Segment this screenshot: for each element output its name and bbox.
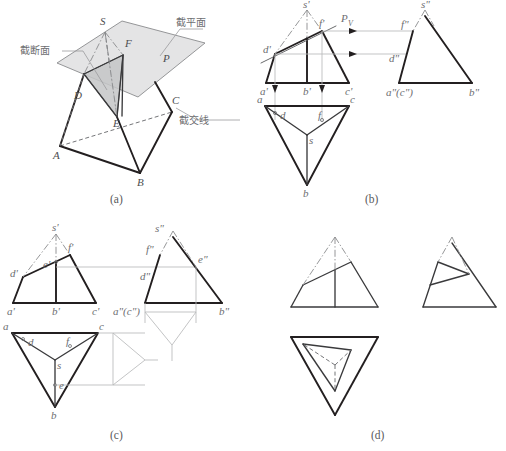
c-tv-edge-c-s (55, 333, 98, 360)
c-tv-edge-c-b (55, 333, 98, 407)
c-fv-label-a: a' (7, 305, 16, 317)
vertex-label-E: E (112, 117, 120, 129)
c-sv-aux-tri-left (145, 312, 172, 345)
pyramid-edge-b-c (140, 112, 172, 173)
d-tv-edge-a-b (291, 337, 335, 415)
tv-label-a: a (257, 93, 263, 105)
arrowhead-f-projector (349, 28, 357, 34)
panel-d-caption: (d) (371, 429, 385, 442)
c-sv-label-s: s" (155, 222, 164, 234)
arrowhead-d-down (272, 85, 278, 93)
c-tv-label-f: f (66, 335, 71, 347)
sv-label-f: f" (401, 18, 409, 30)
c-tv-label-c: c (99, 320, 104, 332)
c-fv-apex-left (23, 234, 56, 277)
fv-label-d: d' (263, 43, 272, 55)
panel-d-projection: (d) (253, 215, 506, 451)
c-fv-label-s: s' (52, 221, 59, 233)
panel-a-pictorial: 截断面 截平面 截交线 S F P D C E A B (a) (0, 0, 253, 215)
figure-root: 截断面 截平面 截交线 S F P D C E A B (a) (0, 0, 506, 451)
sv-edge-right (425, 16, 472, 83)
pyramid-edge-a-apexline (60, 74, 84, 146)
c-sv-label-b: b" (219, 305, 230, 317)
d-sv-cut-edge-lower (430, 274, 469, 285)
d-fv-edge-right (351, 262, 378, 307)
c-sv-apex-left (160, 231, 173, 255)
fv-label-f: f' (319, 17, 325, 29)
vertex-label-A: A (52, 149, 60, 161)
c-fv-edge-c-f (70, 255, 96, 303)
tv-edge-a-b (265, 106, 307, 185)
fv-label-s: s' (303, 0, 310, 10)
c-tv-label-e: e (59, 379, 64, 391)
pyramid-edge-a-b (60, 146, 140, 173)
tv-edge-c-s (307, 106, 349, 135)
c-fv-label-b: b' (52, 305, 61, 317)
tv-edge-c-b (307, 106, 349, 185)
tv-label-b: b (303, 187, 309, 199)
panel-a-caption: (a) (110, 193, 123, 206)
c-tv-label-a: a (3, 320, 9, 332)
vertex-label-B: B (137, 176, 144, 188)
c-sv-edge-right (173, 237, 222, 303)
tv-label-c: c (350, 93, 355, 105)
sv-label-d: d" (389, 52, 400, 64)
c-tv-transfer-diag-down (113, 360, 145, 385)
c-tv-label-d: d (28, 336, 34, 348)
arrowhead-d-projector (349, 51, 357, 57)
pyramid-edge-c-apexline (155, 82, 172, 112)
label-cut-section: 截断面 (20, 44, 50, 56)
pyramid-edge-b-apexline (117, 117, 140, 173)
fv-label-trace-V: V (348, 19, 354, 28)
c-tv-label-s: s (57, 359, 61, 371)
c-fv-edge-a-d (13, 277, 23, 303)
c-tv-label-b: b (51, 409, 57, 421)
vertex-label-P: P (162, 52, 170, 64)
panel-b-projection: s' f' d' a' b' c' P V s" f" d" a"(c") b"… (253, 0, 506, 215)
c-sv-label-d: d" (140, 270, 151, 282)
tv-edge-a-s (265, 106, 307, 135)
fv-cut-edge-d-f (275, 31, 322, 54)
panel-c-projection: s' f' e' d' a' b' c' s" f" e" d" a"(c") … (0, 215, 253, 451)
vertex-label-C: C (172, 94, 180, 106)
tv-label-s: s (309, 134, 313, 146)
fv-plane-trace-pv (261, 26, 336, 63)
c-fv-label-c: c' (92, 305, 100, 317)
sv-edge-left (399, 31, 413, 83)
panel-b-caption: (b) (365, 193, 379, 206)
d-sv-edge-right (452, 243, 496, 307)
d-tv-inner-edge-f-e (335, 350, 351, 391)
sv-apex-line-left (413, 10, 425, 31)
tv-label-d: d (280, 109, 286, 121)
d-fv-edge-left (291, 285, 303, 307)
vertex-label-S: S (100, 15, 106, 27)
fv-edge-c-f (322, 31, 349, 83)
c-fv-label-f: f' (68, 241, 74, 253)
arrowhead-f-down (319, 85, 325, 93)
label-intersection-line: 截交线 (179, 114, 209, 126)
sv-label-b: b" (469, 86, 480, 98)
c-sv-label-e: e" (198, 253, 208, 265)
fv-apex-line-left (275, 10, 307, 54)
fv-label-b: b' (303, 85, 312, 97)
label-cutting-plane: 截平面 (176, 16, 206, 28)
fv-label-trace-P: P (340, 12, 348, 24)
c-sv-label-ac: a"(c") (113, 305, 140, 318)
vertex-label-F: F (124, 37, 132, 49)
d-sv-apex-left (438, 237, 452, 262)
panel-c-caption: (c) (110, 429, 123, 442)
vertex-label-D: D (73, 89, 82, 101)
c-sv-label-f: f" (146, 243, 154, 255)
c-tv-transfer-diag-up (113, 333, 145, 360)
sv-label-ac: a"(c") (386, 86, 413, 99)
c-fv-label-e: e' (43, 258, 51, 270)
c-sv-apex-right (173, 231, 196, 267)
c-sv-aux-tri-right (172, 312, 196, 345)
sv-label-s: s" (421, 0, 430, 10)
d-fv-apex-right (335, 237, 351, 262)
c-tv-edge-a-s (12, 333, 55, 360)
c-fv-label-d: d' (10, 267, 19, 279)
c-tv-edge-a-b (12, 333, 55, 407)
